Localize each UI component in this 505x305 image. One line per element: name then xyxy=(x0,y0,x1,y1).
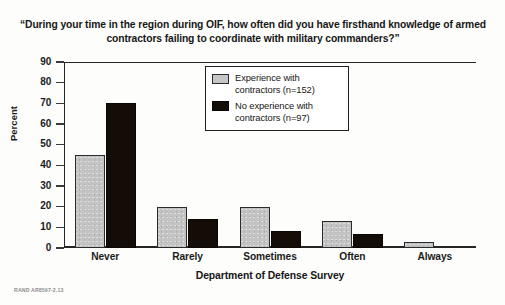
y-axis-tick-mark xyxy=(56,165,64,166)
x-axis-tick-label: Sometimes xyxy=(229,251,311,262)
bar xyxy=(322,221,352,248)
x-axis-tick-label: Rarely xyxy=(146,251,228,262)
y-axis-tick-label: 70 xyxy=(40,97,51,108)
legend-label: Experience withcontractors (n=152) xyxy=(235,72,315,97)
y-axis-tick-mark xyxy=(56,82,64,83)
y-axis-tick-label: 60 xyxy=(40,118,51,129)
y-axis-tick-label: 80 xyxy=(40,76,51,87)
x-axis-tick-label: Often xyxy=(311,251,393,262)
x-axis-tick-label: Always xyxy=(394,251,476,262)
legend-label: No experience withcontractors (n=97) xyxy=(235,100,313,125)
bar xyxy=(404,242,434,248)
y-axis-tick-mark xyxy=(56,206,64,207)
bar xyxy=(157,207,187,248)
y-axis-tick-mark xyxy=(56,247,64,248)
legend-item: No experience withcontractors (n=97) xyxy=(212,100,341,125)
bar xyxy=(188,219,218,248)
bar xyxy=(106,103,136,248)
bar xyxy=(271,231,301,248)
x-axis-tick-label: Never xyxy=(64,251,146,262)
chart-figure: “During your time in the region during O… xyxy=(0,0,505,305)
x-axis-tick-labels: NeverRarelySometimesOftenAlways xyxy=(64,251,476,267)
y-axis-tick-label: 20 xyxy=(40,200,51,211)
y-axis-tick-mark xyxy=(56,227,64,228)
bar-group xyxy=(75,62,136,248)
bar xyxy=(75,155,105,248)
y-axis-tick-label: 30 xyxy=(40,180,51,191)
chart-legend: Experience withcontractors (n=152)No exp… xyxy=(205,66,349,131)
y-axis-tick-label: 40 xyxy=(40,159,51,170)
y-axis-title: Percent xyxy=(8,89,19,159)
y-axis-tick-mark xyxy=(56,185,64,186)
bar-group xyxy=(404,62,465,248)
y-axis-tick-mark xyxy=(56,144,64,145)
source-credit: RAND AR8597-2.13 xyxy=(14,287,64,293)
y-axis-tick-mark xyxy=(56,103,64,104)
x-axis-title: Department of Defense Survey xyxy=(64,270,476,281)
legend-swatch xyxy=(212,101,229,111)
legend-item: Experience withcontractors (n=152) xyxy=(212,72,341,97)
bar xyxy=(240,207,270,248)
y-axis-tick-label: 0 xyxy=(46,242,51,253)
y-axis-tick-label: 10 xyxy=(40,221,51,232)
y-axis-tick-label: 90 xyxy=(40,56,51,67)
y-axis-tick-label: 50 xyxy=(40,138,51,149)
bar xyxy=(353,234,383,248)
legend-swatch xyxy=(212,74,229,84)
chart-title: “During your time in the region during O… xyxy=(18,18,488,46)
y-axis-tick-mark xyxy=(56,61,64,62)
y-axis-tick-mark xyxy=(56,123,64,124)
